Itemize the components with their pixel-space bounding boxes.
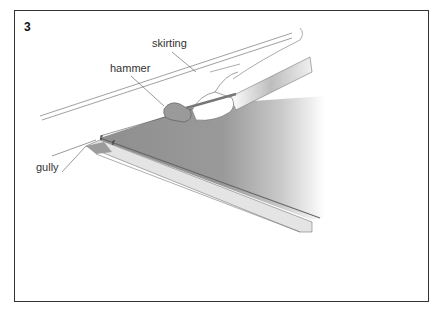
label-skirting: skirting [152,37,187,49]
figure-number: 3 [24,20,31,34]
gully-leader [62,146,86,172]
label-gully: gully [36,161,59,173]
label-hammer: hammer [110,62,150,74]
floor-laying-illustration [0,0,442,319]
skirting-leader [172,52,196,72]
